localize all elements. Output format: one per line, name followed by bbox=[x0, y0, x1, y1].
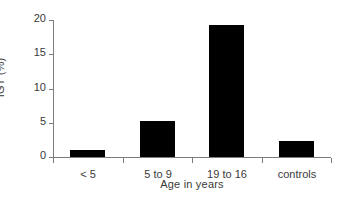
y-axis-tick-label: 0 bbox=[40, 149, 46, 161]
x-axis-tick bbox=[192, 158, 193, 163]
y-tick-group: 20 bbox=[53, 20, 54, 21]
x-axis-tick bbox=[262, 158, 263, 163]
bar bbox=[140, 121, 175, 157]
y-axis-tick-label: 20 bbox=[34, 12, 46, 24]
x-axis-tick bbox=[53, 158, 54, 163]
bar bbox=[70, 150, 105, 157]
y-axis-tick-label: 10 bbox=[34, 81, 46, 93]
bar-chart-figure: IGT (%) 0 5 10 15 20 bbox=[0, 0, 345, 198]
y-tick-group: 15 bbox=[53, 54, 54, 55]
bar bbox=[279, 141, 314, 157]
y-axis-tick bbox=[49, 89, 54, 90]
y-axis-tick bbox=[49, 54, 54, 55]
y-axis-tick bbox=[49, 20, 54, 21]
x-axis-tick bbox=[123, 158, 124, 163]
y-tick-group: 10 bbox=[53, 89, 54, 90]
x-axis-title: Age in years bbox=[53, 178, 331, 190]
bar bbox=[209, 25, 244, 157]
y-axis-tick-label: 15 bbox=[34, 46, 46, 58]
y-axis-title: IGT (%) bbox=[0, 9, 10, 146]
y-tick-group: 5 bbox=[53, 123, 54, 124]
plot-area: 0 5 10 15 20 < 5 5 to 9 19 t bbox=[53, 20, 331, 157]
y-axis-tick-label: 5 bbox=[40, 115, 46, 127]
y-axis-tick bbox=[49, 123, 54, 124]
x-axis-tick bbox=[331, 158, 332, 163]
